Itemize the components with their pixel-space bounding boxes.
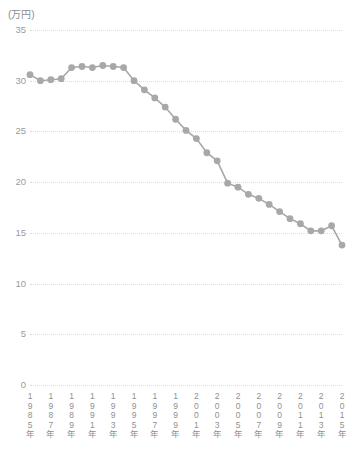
x-axis-tick-label-char: 年 (106, 430, 120, 440)
y-axis-tick-label: 25 (0, 126, 26, 136)
x-axis-tick-label-char: 年 (85, 430, 99, 440)
x-axis-tick-label: 1995年 (127, 392, 141, 440)
x-axis-tick-label-char: 年 (44, 430, 58, 440)
x-axis-tick-label: 1999年 (169, 392, 183, 440)
x-axis-tick-label: 1989年 (65, 392, 79, 440)
x-axis-tick-label-char: 年 (293, 430, 307, 440)
x-axis-tick-label: 2003年 (210, 392, 224, 440)
x-axis-tick-label-char: 年 (23, 430, 37, 440)
x-axis-tick-labels: 1985年1987年1989年1991年1993年1995年1997年1999年… (30, 392, 342, 456)
x-axis-tick-label: 2005年 (231, 392, 245, 440)
chart-root: (万円) 05101520253035 1985年1987年1989年1991年… (0, 0, 350, 460)
y-axis-tick-label: 5 (0, 329, 26, 339)
x-axis-tick-label-char: 年 (210, 430, 224, 440)
x-axis-tick-label-char: 年 (148, 430, 162, 440)
x-axis-tick-label: 2009年 (273, 392, 287, 440)
x-axis-tick-label: 1987年 (44, 392, 58, 440)
y-axis-tick-labels: 05101520253035 (0, 30, 350, 385)
x-axis-tick-label-char: 年 (169, 430, 183, 440)
x-axis-tick-label-char: 年 (335, 430, 349, 440)
x-axis-tick-label: 2013年 (314, 392, 328, 440)
x-axis-tick-label-char: 年 (273, 430, 287, 440)
x-axis-tick-label: 1991年 (85, 392, 99, 440)
x-axis-tick-label-char: 年 (314, 430, 328, 440)
x-axis-tick-label: 2001年 (189, 392, 203, 440)
x-axis-tick-label: 1997年 (148, 392, 162, 440)
y-axis-tick-label: 35 (0, 25, 26, 35)
x-axis-tick-label: 2007年 (252, 392, 266, 440)
y-axis-tick-label: 15 (0, 228, 26, 238)
gridline (30, 385, 342, 386)
x-axis-tick-label: 2015年 (335, 392, 349, 440)
y-axis-tick-label: 20 (0, 177, 26, 187)
y-axis-tick-label: 30 (0, 76, 26, 86)
x-axis-tick-label: 1993年 (106, 392, 120, 440)
x-axis-tick-label-char: 年 (65, 430, 79, 440)
y-axis-tick-label: 0 (0, 380, 26, 390)
x-axis-tick-label-char: 年 (189, 430, 203, 440)
x-axis-tick-label: 1985年 (23, 392, 37, 440)
x-axis-tick-label-char: 年 (252, 430, 266, 440)
x-axis-tick-label-char: 年 (127, 430, 141, 440)
x-axis-tick-label-char: 年 (231, 430, 245, 440)
x-axis-tick-label: 2011年 (293, 392, 307, 440)
y-axis-unit-label: (万円) (8, 6, 35, 21)
y-axis-tick-label: 10 (0, 279, 26, 289)
